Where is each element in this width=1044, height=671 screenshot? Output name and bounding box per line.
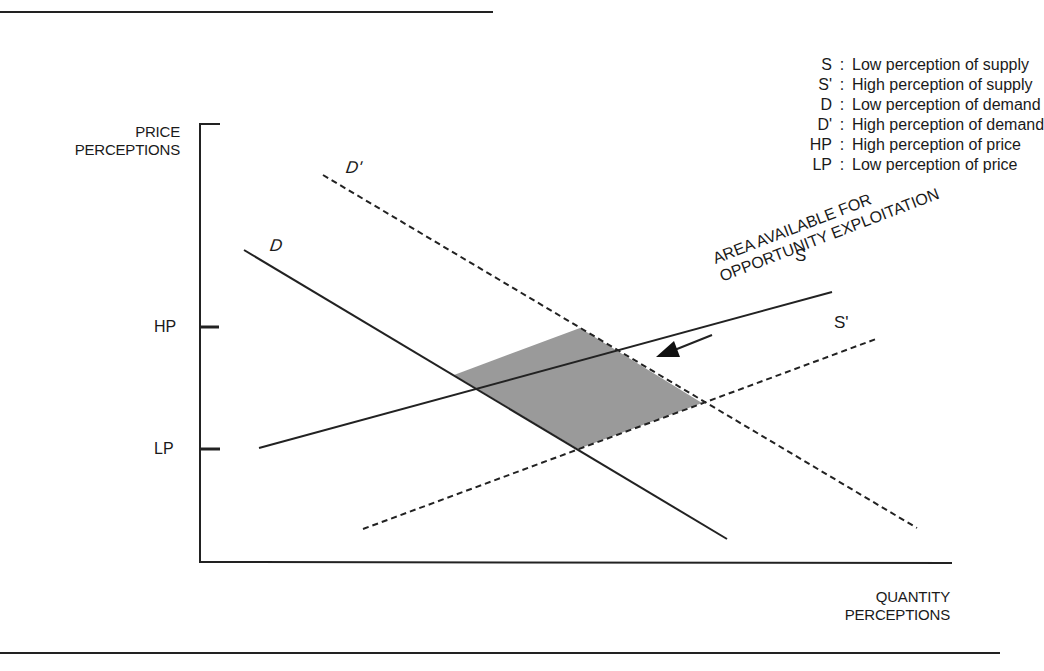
y-axis-label-line1: PRICE (75, 123, 180, 141)
legend-key: LP (790, 155, 832, 175)
opportunity-area (454, 328, 702, 449)
x-axis-label-line2: PERCEPTIONS (845, 606, 950, 624)
x-axis (199, 562, 952, 563)
y-axis-label: PRICE PERCEPTIONS (75, 123, 180, 159)
legend-text: Low perception of price (852, 155, 1017, 175)
legend-item: D:Low perception of demand (790, 95, 1044, 115)
annotation-arrow-shaft (672, 335, 712, 351)
legend-item: LP:Low perception of price (790, 155, 1044, 175)
tick-label-lp: LP (154, 440, 174, 458)
curve-label-s-prime: S' (834, 313, 849, 333)
legend: S:Low perception of supply S':High perce… (790, 55, 1044, 175)
legend-text: High perception of price (852, 135, 1021, 155)
legend-text: Low perception of supply (852, 55, 1029, 75)
tick-label-hp: HP (154, 318, 176, 336)
legend-item: S':High perception of supply (790, 75, 1044, 95)
annotation-arrow-head (656, 341, 680, 357)
legend-item: D':High perception of demand (790, 115, 1044, 135)
y-axis-label-line2: PERCEPTIONS (75, 141, 180, 159)
x-axis-label-line1: QUANTITY (845, 588, 950, 606)
legend-text: Low perception of demand (852, 95, 1041, 115)
legend-key: S (790, 55, 832, 75)
x-axis-label: QUANTITY PERCEPTIONS (845, 588, 950, 624)
legend-text: High perception of supply (852, 75, 1033, 95)
legend-key: S' (790, 75, 832, 95)
legend-text: High perception of demand (852, 115, 1044, 135)
legend-key: D' (790, 115, 832, 135)
legend-key: HP (790, 135, 832, 155)
legend-item: HP:High perception of price (790, 135, 1044, 155)
legend-item: S:Low perception of supply (790, 55, 1044, 75)
curve-label-d-prime: D' (345, 158, 363, 178)
legend-key: D (790, 95, 832, 115)
